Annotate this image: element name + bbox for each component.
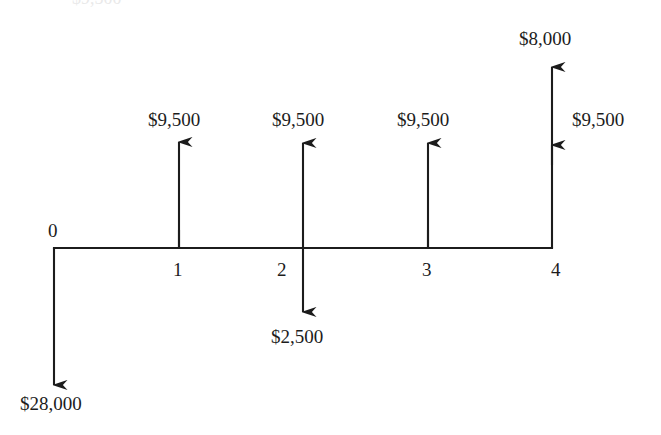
amount-label-period-4-annual: $9,500 bbox=[572, 110, 624, 129]
period-label-2: 2 bbox=[277, 260, 287, 279]
amount-label-period-2-up: $9,500 bbox=[272, 110, 324, 129]
period-label-3: 3 bbox=[422, 260, 432, 279]
origin-label-0: 0 bbox=[48, 221, 58, 240]
cash-flow-canvas bbox=[0, 0, 661, 435]
amount-label-period-3: $9,500 bbox=[397, 110, 449, 129]
amount-label-period-4-salvage: $8,000 bbox=[519, 29, 571, 48]
period-label-4: 4 bbox=[551, 260, 561, 279]
amount-label-period-0: $28,000 bbox=[20, 394, 82, 413]
amount-label-period-1: $9,500 bbox=[148, 110, 200, 129]
amount-label-period-2-down: $2,500 bbox=[271, 327, 323, 346]
period-label-1: 1 bbox=[173, 260, 183, 279]
cash-flow-diagram: $9,500 0 1 2 3 4 $28, bbox=[0, 0, 661, 435]
